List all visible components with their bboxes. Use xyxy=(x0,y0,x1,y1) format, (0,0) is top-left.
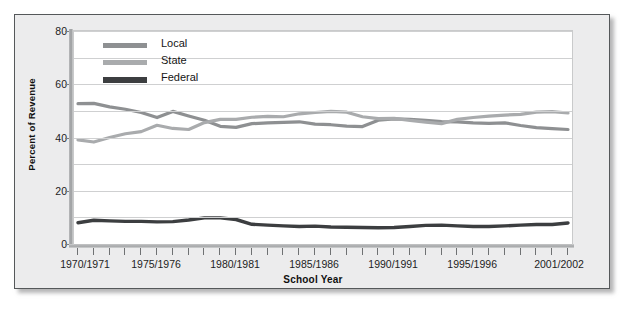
x-tick-mark xyxy=(567,248,568,255)
x-tick-mark xyxy=(456,248,457,255)
legend-swatch-federal xyxy=(103,77,147,83)
x-tick-label: 1975/1976 xyxy=(131,258,181,270)
x-tick-mark xyxy=(520,248,521,255)
x-tick-mark xyxy=(488,248,489,255)
x-tick-mark xyxy=(314,248,315,255)
legend-item-local: Local xyxy=(103,37,243,54)
x-tick-mark xyxy=(425,248,426,255)
legend-item-state: State xyxy=(103,54,243,71)
gridline xyxy=(74,191,572,192)
x-tick-mark xyxy=(77,248,78,255)
gridline xyxy=(74,31,572,32)
x-tick-label: 1995/1996 xyxy=(447,258,497,270)
x-tick-mark xyxy=(219,248,220,255)
x-tick-mark xyxy=(472,248,473,255)
x-tick-label: 1985/1986 xyxy=(289,258,339,270)
gridline xyxy=(74,244,572,245)
x-axis-title: School Year xyxy=(15,274,611,285)
x-tick-mark xyxy=(551,248,552,255)
x-tick-label: 1970/1971 xyxy=(60,258,110,270)
y-tick-label: 0 xyxy=(19,238,67,250)
figure-container: 020406080 1970/19711975/19761980/1981198… xyxy=(0,0,631,319)
legend-label-local: Local xyxy=(161,37,187,49)
gridline xyxy=(74,217,572,218)
x-tick-mark xyxy=(330,248,331,255)
legend-label-federal: Federal xyxy=(161,71,198,83)
x-tick-label: 1980/1981 xyxy=(210,258,260,270)
x-tick-mark xyxy=(124,248,125,255)
y-axis-title: Percent of Revenue xyxy=(26,60,37,190)
x-tick-mark xyxy=(172,248,173,255)
x-tick-mark xyxy=(188,248,189,255)
x-tick-mark xyxy=(267,248,268,255)
x-tick-mark xyxy=(282,248,283,255)
y-axis-ticks: 020406080 xyxy=(15,15,67,290)
x-tick-mark xyxy=(140,248,141,255)
x-tick-mark xyxy=(235,248,236,255)
x-tick-mark xyxy=(298,248,299,255)
x-tick-mark xyxy=(109,248,110,255)
x-tick-label: 2001/2002 xyxy=(534,258,584,270)
x-tick-mark xyxy=(535,248,536,255)
chart-legend: Local State Federal xyxy=(103,37,243,88)
x-tick-mark xyxy=(156,248,157,255)
legend-item-federal: Federal xyxy=(103,71,243,88)
x-tick-mark xyxy=(362,248,363,255)
x-tick-mark xyxy=(203,248,204,255)
x-tick-mark xyxy=(377,248,378,255)
x-tick-mark xyxy=(93,248,94,255)
x-tick-mark xyxy=(504,248,505,255)
legend-swatch-state xyxy=(103,60,147,65)
legend-label-state: State xyxy=(161,54,187,66)
chart-card: 020406080 1970/19711975/19761980/1981198… xyxy=(14,14,610,289)
x-tick-mark xyxy=(393,248,394,255)
x-tick-mark xyxy=(409,248,410,255)
x-tick-label: 1990/1991 xyxy=(368,258,418,270)
legend-swatch-local xyxy=(103,43,147,48)
gridline xyxy=(74,164,572,165)
y-tick-label: 80 xyxy=(19,25,67,37)
x-tick-mark xyxy=(441,248,442,255)
plot-wrapper: 020406080 1970/19711975/19761980/1981198… xyxy=(15,15,611,290)
x-tick-mark xyxy=(251,248,252,255)
series-line-federal xyxy=(78,218,568,228)
gridline xyxy=(74,138,572,139)
gridline xyxy=(74,111,572,112)
x-tick-mark xyxy=(346,248,347,255)
